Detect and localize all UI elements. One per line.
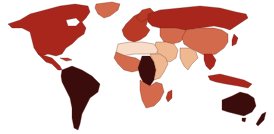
region-central-asia [160, 28, 186, 44]
region-caribbean [60, 58, 72, 61]
region-southern-africa [140, 80, 164, 108]
region-indonesia [208, 74, 252, 88]
region-southeast-asia [204, 54, 216, 70]
region-australia [222, 92, 256, 116]
region-central-america [38, 54, 62, 70]
world-choropleth-map [0, 0, 274, 134]
region-north-america [8, 4, 90, 56]
region-new-zealand [256, 112, 266, 126]
region-russia [148, 6, 248, 30]
region-madagascar [166, 90, 172, 102]
region-greenland [95, 2, 120, 18]
region-india [180, 48, 198, 70]
region-japan [232, 34, 238, 46]
region-tasmania [242, 118, 246, 122]
region-south-america [61, 66, 100, 130]
